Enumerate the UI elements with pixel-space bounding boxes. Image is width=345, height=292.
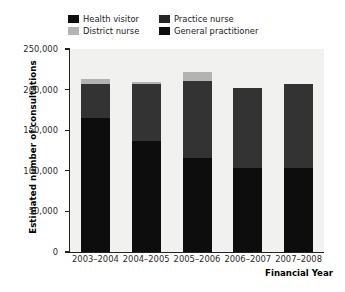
- legend-item-district-nurse: District nurse: [68, 26, 149, 36]
- bar-stack: [284, 84, 313, 252]
- y-axis-tick-label: 150,000: [23, 125, 58, 135]
- legend-swatch-icon: [68, 15, 79, 23]
- x-axis-tick-label: 2003–2004: [72, 254, 119, 264]
- plot-area: 050,000100,000150,000200,000250,000 2003…: [69, 49, 324, 253]
- x-axis-tick-label: 2007–2008: [275, 254, 322, 264]
- bar-stack: [233, 88, 262, 252]
- legend-swatch-icon: [159, 27, 170, 35]
- bar-segment: [233, 88, 262, 168]
- bar-stack: [132, 82, 161, 252]
- y-axis-tick-label: 200,000: [23, 85, 58, 95]
- x-axis-title: Financial Year: [0, 268, 333, 278]
- bar-stack: [183, 72, 212, 252]
- legend-item-general-practitioner: General practitioner: [159, 26, 268, 36]
- bar-segment: [132, 141, 161, 252]
- bar-segment: [233, 168, 262, 252]
- chart-legend: Health visitor Practice nurse District n…: [68, 14, 268, 36]
- y-axis-tick-label: 250,000: [23, 44, 58, 54]
- bar-segment: [183, 72, 212, 81]
- legend-label: Practice nurse: [174, 14, 234, 24]
- bar-segment: [183, 158, 212, 252]
- bar-segment: [132, 84, 161, 141]
- legend-item-health-visitor: Health visitor: [68, 14, 149, 24]
- y-axis-tick-label: 0: [53, 247, 58, 257]
- x-axis-tick-label: 2004–2005: [123, 254, 170, 264]
- x-axis-tick-label: 2006–2007: [224, 254, 271, 264]
- y-axis-tick-label: 50,000: [29, 206, 58, 216]
- legend-item-practice-nurse: Practice nurse: [159, 14, 268, 24]
- bar-chart: Health visitor Practice nurse District n…: [0, 0, 345, 292]
- bar-segment: [284, 84, 313, 168]
- y-axis-tick-label: 100,000: [23, 166, 58, 176]
- bar-segment: [183, 81, 212, 158]
- bar-stack: [81, 79, 110, 252]
- legend-swatch-icon: [68, 27, 79, 35]
- bar-series-container: [70, 49, 324, 252]
- bar-segment: [81, 84, 110, 118]
- legend-label: District nurse: [83, 26, 139, 36]
- legend-label: General practitioner: [174, 26, 258, 36]
- x-axis-tick-label: 2005–2006: [174, 254, 221, 264]
- legend-label: Health visitor: [83, 14, 139, 24]
- legend-swatch-icon: [159, 15, 170, 23]
- bar-segment: [81, 118, 110, 252]
- bar-segment: [284, 168, 313, 252]
